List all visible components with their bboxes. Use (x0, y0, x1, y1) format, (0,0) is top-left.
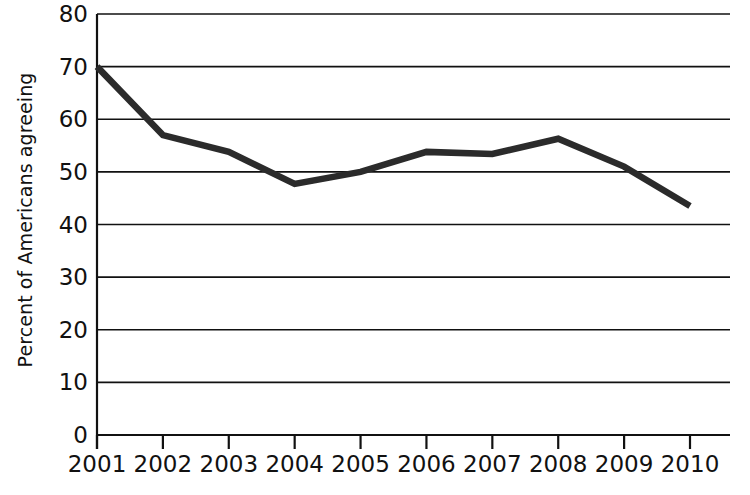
x-axis-tick-2007: 2007 (463, 451, 522, 477)
x-axis-tick-2010: 2010 (661, 451, 720, 477)
x-axis-tick-2006: 2006 (397, 451, 456, 477)
x-axis-tick-2004: 2004 (265, 451, 324, 477)
x-axis-tick-2003: 2003 (199, 451, 258, 477)
x-axis-tick-2001: 2001 (68, 451, 127, 477)
x-axis-tick-2009: 2009 (595, 451, 654, 477)
plot-area (0, 0, 750, 495)
x-axis-tick-2002: 2002 (134, 451, 193, 477)
x-axis-tick-2008: 2008 (529, 451, 588, 477)
line-chart: Percent of Americans agreeing 0102030405… (0, 0, 750, 495)
data-series-line (97, 67, 690, 206)
x-axis-tick-labels: 2001200220032004200520062007200820092010 (0, 443, 750, 495)
x-axis-tick-2005: 2005 (331, 451, 390, 477)
